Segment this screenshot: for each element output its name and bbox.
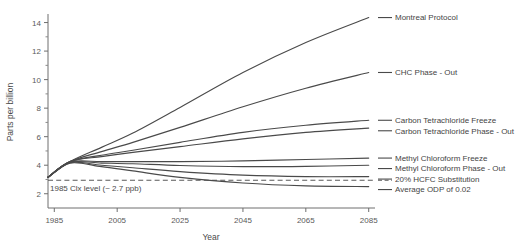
series-line-4	[48, 158, 369, 177]
chart-container: 2468101214 198520052025204520652085 Part…	[0, 0, 519, 250]
x-tick-label: 1985	[45, 216, 63, 225]
x-tick-label: 2045	[234, 216, 252, 225]
y-tick-label: 12	[32, 47, 41, 56]
x-axis-ticks: 198520052025204520652085	[45, 208, 378, 225]
y-tick-label: 14	[32, 19, 41, 28]
x-tick-label: 2005	[108, 216, 126, 225]
series-line-6	[48, 162, 369, 177]
series-line-5	[48, 161, 369, 177]
y-axis-title: Parts per billion	[5, 82, 15, 141]
series-label-1: CHC Phase - Out	[395, 68, 458, 77]
y-tick-label: 8	[37, 104, 42, 113]
chlorine-loading-line-chart: 2468101214 198520052025204520652085 Part…	[0, 0, 519, 250]
y-axis-ticks: 2468101214	[32, 19, 48, 199]
x-tick-label: 2065	[297, 216, 315, 225]
series-label-7: Average ODP of 0.02	[395, 185, 471, 194]
series-lines	[48, 18, 369, 187]
x-tick-label: 2025	[171, 216, 189, 225]
series-label-0: Montreal Protocol	[395, 13, 458, 22]
y-tick-label: 4	[37, 161, 42, 170]
series-labels: Montreal ProtocolCHC Phase - OutCarbon T…	[395, 13, 515, 194]
series-label-3: Carbon Tetrachloride Phase - Out	[395, 127, 515, 136]
y-tick-label: 2	[37, 190, 42, 199]
chart-axes	[48, 14, 375, 208]
series-line-2	[48, 120, 369, 177]
series-label-2: Carbon Tetrachloride Freeze	[395, 116, 497, 125]
series-label-5: Methyl Chloroform Phase - Out	[395, 164, 506, 173]
y-tick-label: 6	[37, 133, 42, 142]
series-leader-lines	[378, 18, 392, 190]
clx-1985-reference-label: 1985 Clx level (~ 2.7 ppb)	[50, 184, 142, 193]
y-tick-label: 10	[32, 76, 41, 85]
series-label-4: Methyl Chloroform Freeze	[395, 154, 488, 163]
series-label-6: 20% HCFC Substitution	[395, 175, 479, 184]
x-tick-label: 2085	[360, 216, 378, 225]
x-axis-title: Year	[202, 232, 219, 242]
